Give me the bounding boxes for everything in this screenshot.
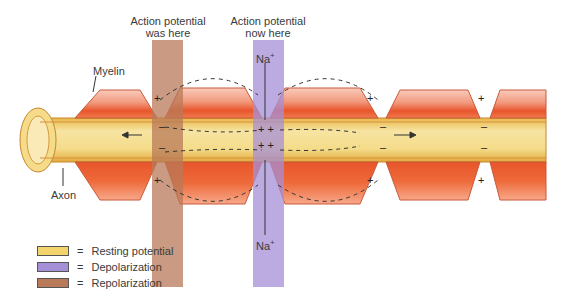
svg-text:+ +: + + <box>258 139 274 151</box>
svg-text:+: + <box>154 174 160 186</box>
legend-repolarization: = Repolarization <box>37 275 173 291</box>
label-na-top: Na+ <box>256 50 275 65</box>
label-na-bottom: Na+ <box>256 237 275 252</box>
svg-text:–: – <box>159 120 166 132</box>
svg-text:–: – <box>481 141 488 153</box>
legend-depolarization: = Depolarization <box>37 259 173 275</box>
svg-text:–: – <box>481 120 488 132</box>
label-myelin: Myelin <box>93 65 125 77</box>
svg-text:+: + <box>478 174 484 186</box>
svg-text:+ +: + + <box>258 123 274 135</box>
swatch-repolarization <box>37 278 69 288</box>
svg-text:+: + <box>367 174 373 186</box>
svg-text:+: + <box>478 92 484 104</box>
legend: = Resting potential = Depolarization = R… <box>37 243 173 291</box>
label-was-here: Action potential was here <box>128 15 208 39</box>
svg-text:+: + <box>367 92 373 104</box>
swatch-resting <box>37 246 69 256</box>
legend-resting: = Resting potential <box>37 243 173 259</box>
svg-text:–: – <box>380 120 387 132</box>
svg-text:–: – <box>159 141 166 153</box>
svg-text:–: – <box>380 141 387 153</box>
swatch-depolarization <box>37 262 69 272</box>
label-axon: Axon <box>51 189 76 201</box>
svg-text:+: + <box>154 92 160 104</box>
axon-core <box>40 118 546 162</box>
label-now-here: Action potential now here <box>228 15 308 39</box>
